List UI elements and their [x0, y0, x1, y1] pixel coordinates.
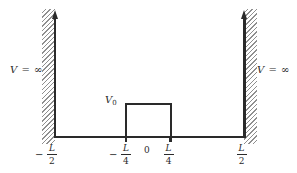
fraction-bar	[47, 154, 57, 155]
fraction-bar	[121, 154, 131, 155]
denominator: 2	[49, 156, 55, 166]
v-variable: V	[10, 64, 18, 75]
fraction-l-over-2: L 2	[236, 143, 247, 166]
numerator: L	[239, 143, 245, 153]
label-v-infinity-right: V = ∞	[257, 63, 290, 76]
fraction-bar	[164, 154, 174, 155]
fraction-l-over-4: L 4	[120, 143, 131, 166]
left-wall-line	[54, 18, 57, 138]
tick-neg-quarter	[125, 138, 128, 142]
equals-infinity: = ∞	[268, 64, 289, 75]
fraction-l-over-4: L 4	[163, 143, 174, 166]
numerator: L	[49, 143, 55, 153]
fraction-l-over-2: L 2	[46, 143, 57, 166]
label-v0: V0	[105, 93, 117, 110]
label-l-over-4: L 4	[163, 143, 174, 166]
label-l-over-2: L 2	[236, 143, 247, 166]
right-wall-line	[243, 18, 246, 138]
numerator: L	[123, 143, 129, 153]
tick-pos-quarter	[169, 138, 172, 142]
denominator: 4	[166, 156, 172, 166]
central-barrier-box	[125, 103, 173, 137]
denominator: 4	[123, 156, 129, 166]
label-origin: 0	[144, 145, 150, 156]
v-variable: V	[257, 64, 265, 75]
potential-well-diagram: V = ∞ V = ∞ V0 − L 2 − L 4 0 L 4	[0, 0, 297, 173]
v0-subscript: 0	[112, 99, 116, 107]
label-v-infinity-left: V = ∞	[10, 63, 43, 76]
fraction-bar	[237, 154, 247, 155]
equals-infinity: = ∞	[21, 64, 42, 75]
label-neg-l-over-2: − L 2	[35, 143, 57, 166]
denominator: 2	[239, 156, 245, 166]
minus-sign: −	[109, 150, 117, 160]
label-neg-l-over-4: − L 4	[109, 143, 131, 166]
minus-sign: −	[35, 150, 43, 160]
numerator: L	[166, 143, 172, 153]
